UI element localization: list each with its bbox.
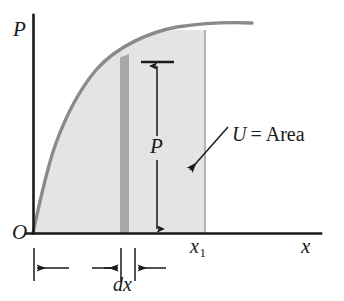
u-symbol: U	[232, 123, 246, 145]
origin-label: O	[12, 222, 27, 243]
equals-sign: =	[250, 123, 261, 145]
strip-height-label: P	[150, 136, 163, 157]
p-axis-label: P	[13, 19, 26, 40]
diagram-canvas	[0, 0, 344, 301]
strip-width-label: dx	[113, 274, 132, 294]
x-axis-label: x	[301, 236, 310, 257]
force-displacement-work-diagram: P O x x1 P dx U=Area	[0, 0, 344, 301]
x1-base: x	[190, 235, 199, 257]
u-area-annotation: U=Area	[232, 124, 305, 144]
x1-limit-label: x1	[190, 236, 206, 259]
differential-strip-dx	[120, 54, 129, 233]
area-word: Area	[266, 123, 305, 145]
x1-subscript: 1	[199, 245, 206, 260]
